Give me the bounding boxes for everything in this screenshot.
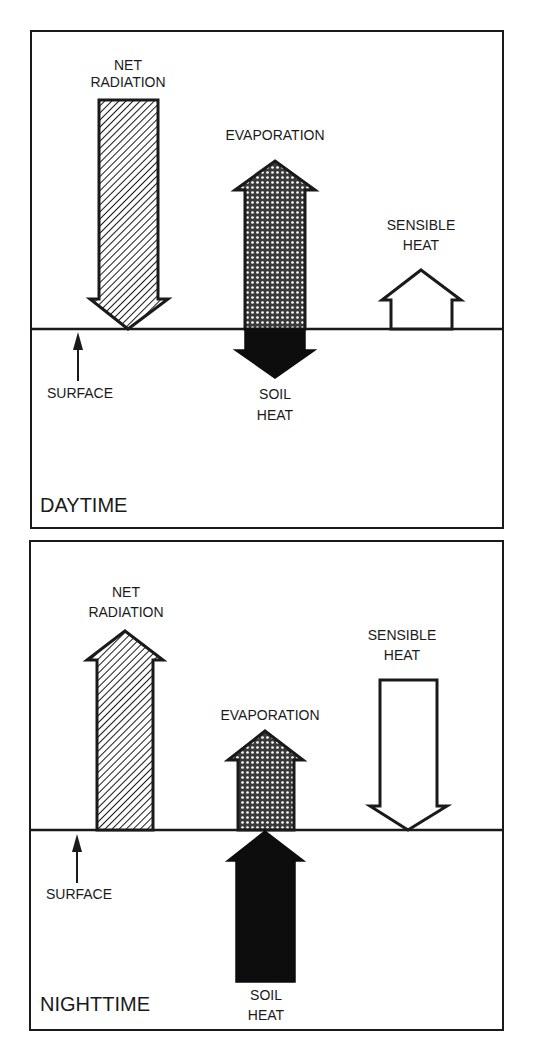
surface-energy-balance-diagram: NET RADIATION EVAPORATION SOIL HEAT SENS…	[0, 0, 539, 1048]
nighttime-panel-title: NIGHTTIME	[40, 993, 150, 1015]
daytime-sensible-heat-label-1: SENSIBLE	[387, 217, 455, 233]
daytime-panel: NET RADIATION EVAPORATION SOIL HEAT SENS…	[30, 31, 504, 528]
nighttime-soil-heat-label-2: HEAT	[248, 1007, 285, 1023]
nighttime-soil-heat-arrow-icon	[227, 831, 304, 982]
nighttime-surface-label: SURFACE	[46, 886, 112, 902]
nighttime-soil-heat-label-1: SOIL	[250, 987, 282, 1003]
daytime-evaporation-arrow-icon	[235, 161, 315, 329]
nighttime-evaporation-label: EVAPORATION	[220, 707, 319, 723]
daytime-net-radiation-label-1: NET	[114, 57, 142, 73]
daytime-sensible-heat-arrow-icon	[382, 270, 461, 329]
daytime-soil-heat-label-1: SOIL	[259, 386, 291, 402]
daytime-net-radiation-label-2: RADIATION	[90, 74, 165, 90]
nighttime-surface-pointer-icon	[72, 834, 82, 883]
daytime-soil-heat-arrow-icon	[235, 329, 315, 378]
nighttime-sensible-heat-label-1: SENSIBLE	[368, 627, 436, 643]
daytime-sensible-heat-label-2: HEAT	[403, 237, 440, 253]
daytime-net-radiation-arrow-icon	[90, 100, 168, 329]
nighttime-sensible-heat-label-2: HEAT	[384, 647, 421, 663]
daytime-evaporation-label: EVAPORATION	[225, 127, 324, 143]
nighttime-net-radiation-arrow-icon	[87, 631, 163, 830]
daytime-surface-pointer-icon	[73, 332, 83, 381]
nighttime-net-radiation-label-2: RADIATION	[88, 604, 163, 620]
daytime-panel-title: DAYTIME	[40, 494, 127, 516]
daytime-surface-label: SURFACE	[47, 385, 113, 401]
nighttime-panel: NET RADIATION EVAPORATION SENSIBLE HEAT …	[29, 541, 504, 1030]
daytime-soil-heat-label-2: HEAT	[257, 407, 294, 423]
nighttime-net-radiation-label-1: NET	[112, 584, 140, 600]
nighttime-evaporation-arrow-icon	[228, 731, 303, 830]
nighttime-sensible-heat-arrow-icon	[370, 680, 447, 830]
